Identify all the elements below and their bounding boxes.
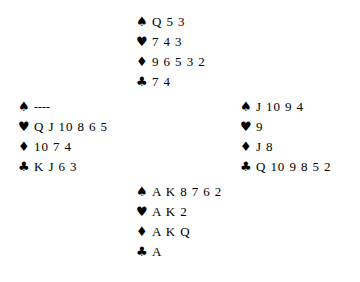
south-heart-row: ♥ A K 2 [136, 202, 222, 222]
heart-icon: ♥ [18, 117, 33, 137]
diamond-icon: ♦ [136, 52, 151, 72]
spade-icon: ♠ [136, 182, 151, 202]
south-diamond-row: ♦ A K Q [136, 222, 222, 242]
east-heart-cards: 9 [255, 117, 263, 137]
east-club-cards: Q 10 9 8 5 2 [255, 157, 331, 177]
east-club-row: ♣ Q 10 9 8 5 2 [240, 157, 331, 177]
south-diamond-cards: A K Q [151, 222, 190, 242]
spade-icon: ♠ [240, 97, 255, 117]
west-heart-cards: Q J 10 8 6 5 [33, 117, 108, 137]
east-spade-row: ♠ J 10 9 4 [240, 97, 331, 117]
diamond-icon: ♦ [136, 222, 151, 242]
east-spade-cards: J 10 9 4 [255, 97, 304, 117]
south-club-cards: A [151, 242, 162, 262]
spade-icon: ♠ [18, 97, 33, 117]
spade-icon: ♠ [136, 12, 151, 32]
club-icon: ♣ [18, 157, 33, 177]
north-club-row: ♣ 7 4 [136, 72, 206, 92]
heart-icon: ♥ [240, 117, 255, 137]
west-diamond-cards: 10 7 4 [33, 137, 72, 157]
east-heart-row: ♥ 9 [240, 117, 331, 137]
club-icon: ♣ [240, 157, 255, 177]
hand-east: ♠ J 10 9 4 ♥ 9 ♦ J 8 ♣ Q 10 9 8 5 2 [240, 97, 331, 177]
west-diamond-row: ♦ 10 7 4 [18, 137, 108, 157]
west-heart-row: ♥ Q J 10 8 6 5 [18, 117, 108, 137]
north-spade-cards: Q 5 3 [151, 12, 185, 32]
south-spade-cards: A K 8 7 6 2 [151, 182, 222, 202]
north-heart-row: ♥ 7 4 3 [136, 32, 206, 52]
west-spade-row: ♠ ---- [18, 97, 108, 117]
heart-icon: ♥ [136, 32, 151, 52]
south-heart-cards: A K 2 [151, 202, 188, 222]
west-club-cards: K J 6 3 [33, 157, 78, 177]
heart-icon: ♥ [136, 202, 151, 222]
hand-north: ♠ Q 5 3 ♥ 7 4 3 ♦ 9 6 5 3 2 ♣ 7 4 [136, 12, 206, 92]
west-spade-cards: ---- [33, 97, 50, 117]
north-diamond-cards: 9 6 5 3 2 [151, 52, 206, 72]
north-club-cards: 7 4 [151, 72, 171, 92]
north-heart-cards: 7 4 3 [151, 32, 183, 52]
club-icon: ♣ [136, 242, 151, 262]
diamond-icon: ♦ [240, 137, 255, 157]
south-club-row: ♣ A [136, 242, 222, 262]
west-club-row: ♣ K J 6 3 [18, 157, 108, 177]
east-diamond-cards: J 8 [255, 137, 274, 157]
club-icon: ♣ [136, 72, 151, 92]
north-diamond-row: ♦ 9 6 5 3 2 [136, 52, 206, 72]
north-spade-row: ♠ Q 5 3 [136, 12, 206, 32]
diamond-icon: ♦ [18, 137, 33, 157]
east-diamond-row: ♦ J 8 [240, 137, 331, 157]
hand-west: ♠ ---- ♥ Q J 10 8 6 5 ♦ 10 7 4 ♣ K J 6 3 [18, 97, 108, 177]
hand-south: ♠ A K 8 7 6 2 ♥ A K 2 ♦ A K Q ♣ A [136, 182, 222, 262]
south-spade-row: ♠ A K 8 7 6 2 [136, 182, 222, 202]
